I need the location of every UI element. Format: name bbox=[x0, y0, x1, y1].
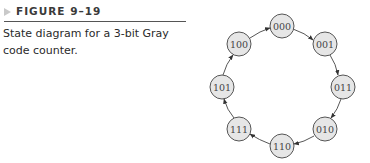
edge-111-101 bbox=[224, 99, 234, 118]
state-node-110: 110 bbox=[270, 134, 294, 158]
state-diagram: 000 001 011 010 110 111 101 100 bbox=[0, 0, 370, 163]
svg-text:110: 110 bbox=[273, 141, 291, 152]
state-node-111: 111 bbox=[227, 117, 251, 141]
state-nodes: 000 001 011 010 110 111 101 100 bbox=[210, 14, 355, 158]
svg-text:101: 101 bbox=[213, 82, 231, 93]
svg-text:011: 011 bbox=[334, 82, 352, 93]
svg-text:111: 111 bbox=[230, 124, 248, 135]
svg-text:100: 100 bbox=[230, 39, 248, 50]
edge-001-011 bbox=[330, 55, 338, 75]
state-node-001: 001 bbox=[313, 32, 337, 56]
edge-000-001 bbox=[293, 29, 313, 40]
edge-100-000 bbox=[250, 28, 270, 38]
edge-101-100 bbox=[223, 55, 233, 75]
edge-110-111 bbox=[250, 134, 270, 144]
state-node-101: 101 bbox=[210, 75, 234, 99]
edge-010-110 bbox=[294, 136, 314, 144]
svg-text:000: 000 bbox=[273, 21, 291, 32]
state-node-010: 010 bbox=[313, 117, 337, 141]
edge-011-010 bbox=[331, 99, 341, 118]
state-node-100: 100 bbox=[227, 32, 251, 56]
state-node-000: 000 bbox=[270, 14, 294, 38]
svg-text:001: 001 bbox=[316, 39, 334, 50]
state-node-011: 011 bbox=[331, 75, 355, 99]
svg-text:010: 010 bbox=[316, 124, 334, 135]
